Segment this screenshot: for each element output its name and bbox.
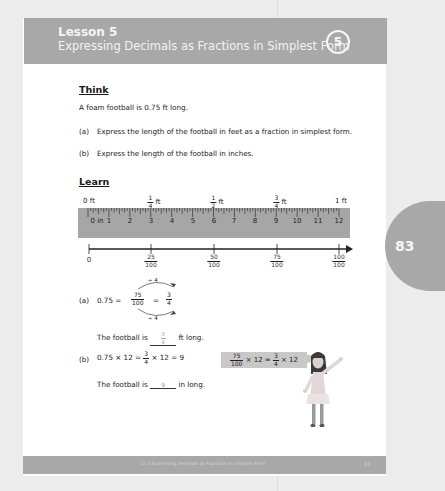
number-line-label-0: 0	[87, 256, 91, 264]
lesson-number: Lesson 5	[58, 25, 117, 39]
inch-label-7: 7	[232, 217, 236, 225]
think-part-a: Express the length of the football in fe…	[97, 127, 352, 136]
part-b-answer: The football is 9 in long.	[97, 380, 205, 389]
ft-label-1: 1 ft	[335, 197, 347, 205]
think-part-a-label: (a)	[79, 127, 89, 136]
inch-label-0: 0 in	[90, 217, 103, 225]
part-a-decimal: 0.75 =	[97, 296, 121, 305]
lesson-title: Expressing Decimals as Fractions in Simp…	[58, 39, 350, 53]
footer-page-number: 83	[364, 461, 370, 467]
inch-label-4: 4	[170, 217, 174, 225]
ft-label-three-quarters: 34 ft	[273, 195, 286, 209]
number-line-label-50: 50100	[207, 254, 220, 268]
think-heading: Think	[79, 84, 109, 95]
bottom-arrow-label: ÷ 4	[148, 315, 158, 321]
number-line-label-100: 100100	[332, 254, 345, 268]
part-a-label: (a)	[79, 296, 89, 305]
footer-lesson-text: 12.5 Expressing Decimals as Fractions in…	[140, 461, 266, 466]
think-problem: A foam football is 0.75 ft long.	[79, 103, 188, 112]
speech-bubble: 75100 × 12 = 34 × 12	[221, 352, 307, 368]
inch-label-5: 5	[191, 217, 195, 225]
part-b-label: (b)	[79, 355, 89, 364]
girl-illustration-icon	[300, 350, 350, 432]
part-b-equation: 0.75 × 12 = 34 × 12 = 9	[97, 351, 184, 365]
part-a-answer-blank: 34	[150, 331, 176, 346]
number-line-label-25: 25100	[144, 254, 157, 268]
part-a-fraction-3-4: 34	[166, 292, 172, 306]
inch-label-12: 12	[335, 217, 344, 225]
lesson-badge: 5	[326, 30, 350, 54]
learn-heading: Learn	[79, 176, 109, 187]
number-line-label-75: 75100	[270, 254, 283, 268]
inch-label-1: 1	[107, 217, 111, 225]
inch-label-8: 8	[253, 217, 257, 225]
think-part-b-label: (b)	[79, 149, 89, 158]
inch-label-11: 11	[314, 217, 323, 225]
think-part-b: Express the length of the football in in…	[97, 149, 254, 158]
part-b-answer-blank: 9	[150, 381, 176, 389]
inch-label-3: 3	[149, 217, 153, 225]
ft-label-0: 0 ft	[83, 197, 95, 205]
part-a-fraction-75-100: 75100	[131, 292, 144, 306]
inch-label-10: 10	[293, 217, 302, 225]
part-a-equals: =	[153, 296, 159, 305]
side-page-tab: 83	[385, 201, 445, 291]
part-a-answer: The football is 34 ft long.	[97, 331, 204, 346]
ft-label-quarter: 14 ft	[147, 195, 160, 209]
top-arrow-label: ÷ 4	[148, 277, 158, 283]
ft-label-half: 12 ft	[210, 195, 223, 209]
inch-label-9: 9	[274, 217, 278, 225]
inch-label-6: 6	[212, 217, 216, 225]
inch-label-2: 2	[128, 217, 132, 225]
